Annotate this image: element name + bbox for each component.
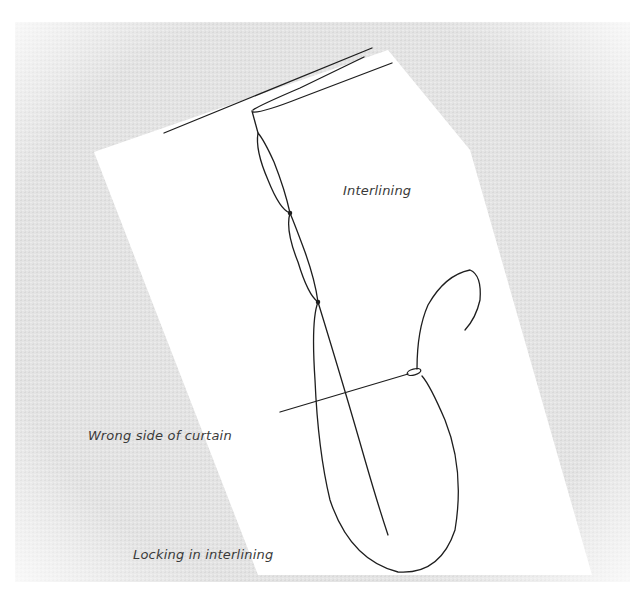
stitch-illustration <box>0 0 643 596</box>
caption-locking-in-interlining: Locking in interlining <box>133 547 273 562</box>
label-interlining: Interlining <box>343 183 411 198</box>
diagram-canvas: Interlining Wrong side of curtain Lockin… <box>0 0 643 596</box>
label-wrong-side-of-curtain: Wrong side of curtain <box>88 428 232 443</box>
